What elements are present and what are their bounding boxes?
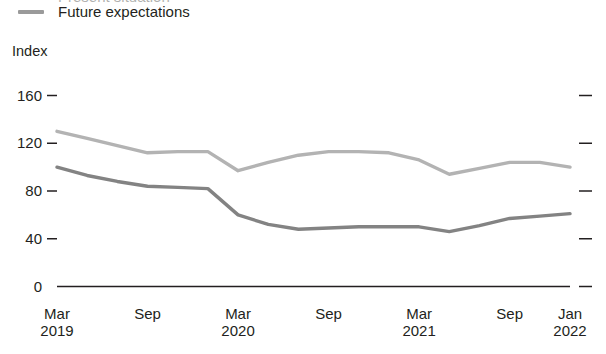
x-axis-label-year: 2022 (553, 322, 586, 339)
x-axis-label-0: Mar2019 (40, 305, 73, 339)
x-axis-label-2: Mar2020 (221, 305, 254, 339)
x-axis-label-1: Sep (134, 305, 161, 322)
chart-svg (0, 0, 606, 354)
x-axis-label-month: Sep (134, 305, 161, 322)
x-axis-label-month: Sep (496, 305, 523, 322)
x-axis-label-4: Mar2021 (402, 305, 435, 339)
x-axis-label-year: 2020 (221, 322, 254, 339)
x-axis-label-month: Mar (221, 305, 254, 322)
y-axis-ticks-right (579, 96, 592, 287)
y-axis-label-120: 120 (0, 135, 42, 151)
x-axis-label-6: Jan2022 (553, 305, 586, 339)
x-axis-label-month: Sep (315, 305, 342, 322)
x-axis-label-year: 2019 (40, 322, 73, 339)
x-axis-label-3: Sep (315, 305, 342, 322)
x-axis-label-month: Mar (402, 305, 435, 322)
x-axis-label-month: Jan (553, 305, 586, 322)
x-axis-label-5: Sep (496, 305, 523, 322)
series-line-present-situation (57, 131, 570, 174)
y-axis-label-160: 160 (0, 88, 42, 104)
x-axis-label-year: 2021 (402, 322, 435, 339)
y-axis-label-0: 0 (0, 279, 42, 295)
series-line-future-expectations (57, 167, 570, 231)
x-axis-label-month: Mar (40, 305, 73, 322)
y-axis-label-40: 40 (0, 231, 42, 247)
chart-plot-area (0, 0, 606, 354)
y-axis-label-80: 80 (0, 183, 42, 199)
